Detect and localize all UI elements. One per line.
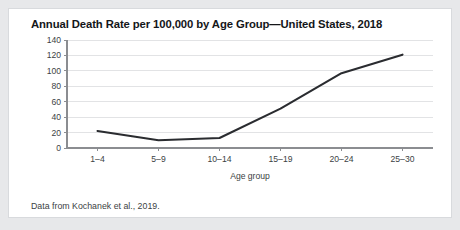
x-tick-label: 25–30 [391, 154, 415, 164]
x-tick-label: 20–24 [330, 154, 354, 164]
x-tick-label: 5–9 [151, 154, 166, 164]
figure-source-note: Data from Kochanek et al., 2019. [31, 201, 160, 211]
y-tick-label: 140 [47, 36, 62, 45]
y-tick-label: 60 [51, 97, 61, 107]
y-tick-label: 40 [51, 112, 61, 122]
x-tick-label: 1–4 [90, 154, 105, 164]
series-line-annual-death-rate [98, 55, 403, 141]
y-tick-label: 20 [51, 128, 61, 138]
chart-x-axis-ticks: 1–45–910–1415–1920–2425–30 [90, 148, 414, 164]
chart-y-axis-ticks: 020406080100120140 [47, 36, 67, 153]
y-tick-label: 0 [56, 143, 61, 153]
y-tick-label: 100 [47, 66, 62, 76]
y-tick-label: 120 [47, 50, 62, 60]
figure-card: Annual Death Rate per 100,000 by Age Gro… [8, 8, 452, 218]
page-title: Annual Death Rate per 100,000 by Age Gro… [31, 18, 382, 30]
x-axis-title: Age group [230, 171, 270, 181]
x-tick-label: 10–14 [208, 154, 232, 164]
x-tick-label: 15–19 [269, 154, 293, 164]
chart-gridlines [67, 40, 433, 133]
line-chart-svg: 020406080100120140 1–45–910–1415–1920–24… [29, 36, 439, 186]
y-tick-label: 80 [51, 81, 61, 91]
chart-plot-area: 020406080100120140 1–45–910–1415–1920–24… [29, 36, 439, 186]
